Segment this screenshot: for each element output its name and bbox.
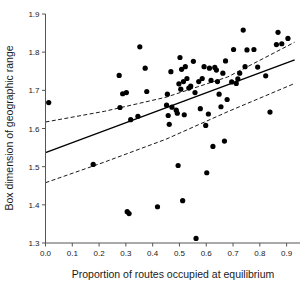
data-point (207, 66, 212, 71)
data-point (206, 111, 211, 116)
data-point (168, 69, 173, 74)
data-point (117, 73, 122, 78)
data-point (180, 198, 185, 203)
y-axis-label: Box dimension of geographic range (3, 45, 15, 210)
data-point (200, 76, 205, 81)
data-point (166, 113, 171, 118)
data-point (274, 42, 279, 47)
data-point (46, 100, 51, 105)
data-point (237, 71, 242, 76)
data-point (201, 64, 206, 69)
data-point (191, 59, 196, 64)
data-point (91, 162, 96, 167)
data-point (218, 104, 223, 109)
y-tick-label: 1.9 (28, 10, 40, 19)
data-point (178, 87, 183, 92)
data-point (244, 47, 249, 52)
plot-canvas: 1.31.41.51.61.71.81.90.00.10.20.30.40.50… (0, 0, 307, 288)
data-point (210, 144, 215, 149)
data-point (192, 90, 197, 95)
scatter-plot-figure: 1.31.41.51.61.71.81.90.00.10.20.30.40.50… (0, 0, 307, 288)
data-point (208, 78, 213, 83)
data-point (222, 139, 227, 144)
data-point (167, 122, 172, 127)
data-point (193, 236, 198, 241)
x-tick-label: 0.7 (227, 249, 239, 258)
x-tick-label: 0.0 (40, 249, 52, 258)
data-point (242, 64, 247, 69)
data-point (231, 47, 236, 52)
data-point (164, 103, 169, 108)
data-points-group (46, 27, 290, 241)
data-point (124, 90, 129, 95)
data-point (225, 97, 230, 102)
data-point (214, 68, 219, 73)
data-point (165, 92, 170, 97)
confidence-band-line (46, 83, 295, 182)
y-tick-label: 1.5 (28, 163, 40, 172)
data-point (255, 64, 260, 69)
data-point (126, 211, 131, 216)
data-point (229, 79, 234, 84)
data-point (279, 41, 284, 46)
data-point (143, 66, 148, 71)
x-tick-label: 0.4 (147, 249, 159, 258)
data-point (220, 71, 225, 76)
x-tick-label: 0.2 (94, 249, 106, 258)
confidence-band-group (46, 42, 295, 182)
data-point (176, 81, 181, 86)
data-point (117, 105, 122, 110)
confidence-band-line (46, 42, 295, 122)
data-point (234, 81, 239, 86)
x-tick-label: 0.9 (281, 249, 293, 258)
data-point (263, 73, 268, 78)
data-point (169, 105, 174, 110)
data-point (144, 89, 149, 94)
y-tick-label: 1.8 (28, 48, 40, 57)
data-point (183, 64, 188, 69)
data-point (184, 76, 189, 81)
y-tick-label: 1.7 (28, 86, 40, 95)
data-point (275, 30, 280, 35)
data-point (175, 111, 180, 116)
data-point (217, 92, 222, 97)
data-point (203, 123, 208, 128)
data-point (188, 84, 193, 89)
data-point (223, 58, 228, 63)
x-tick-label: 0.1 (67, 249, 79, 258)
data-point (176, 163, 181, 168)
data-point (135, 114, 140, 119)
data-point (198, 106, 203, 111)
x-axis-label: Proportion of routes occupied at equilib… (72, 268, 275, 280)
data-point (285, 36, 290, 41)
data-point (235, 76, 240, 81)
data-point (204, 170, 209, 175)
data-point (177, 55, 182, 60)
data-point (251, 47, 256, 52)
y-tick-label: 1.3 (28, 239, 40, 248)
x-tick-label: 0.5 (174, 249, 186, 258)
data-point (215, 79, 220, 84)
data-point (182, 112, 187, 117)
y-tick-label: 1.4 (28, 201, 40, 210)
axes-group (42, 14, 300, 247)
y-tick-label: 1.6 (28, 125, 40, 134)
data-point (155, 204, 160, 209)
data-point (267, 109, 272, 114)
x-tick-label: 0.8 (254, 249, 266, 258)
data-point (137, 44, 142, 49)
x-tick-label: 0.6 (201, 249, 213, 258)
x-tick-label: 0.3 (120, 249, 132, 258)
data-point (128, 117, 133, 122)
data-point (241, 27, 246, 32)
